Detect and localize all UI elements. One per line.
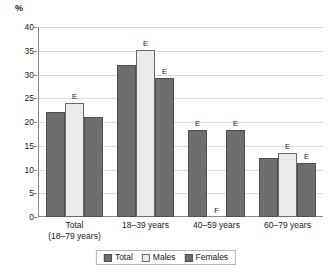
y-axis-tick-mark (34, 98, 37, 99)
y-axis-tick-label: 5 (2, 189, 34, 198)
bar-females[interactable] (226, 130, 245, 217)
gridline (39, 217, 323, 218)
legend-label: Males (153, 253, 176, 262)
quality-flag-e: E (65, 93, 84, 101)
legend-label: Total (115, 253, 133, 262)
x-axis-category-label: 60–79 years (252, 220, 323, 242)
bar-slot (259, 27, 278, 217)
bar-total[interactable] (46, 112, 65, 217)
legend-item-total[interactable]: Total (104, 253, 133, 262)
bar-males[interactable] (278, 153, 297, 217)
x-axis-category-label: 18–39 years (110, 220, 181, 242)
y-axis: 0510152025303540 (0, 27, 34, 217)
bar-males[interactable] (65, 103, 84, 217)
chart-legend: TotalMalesFemales (96, 250, 236, 265)
bar-total[interactable] (117, 65, 136, 217)
y-axis-tick-mark (34, 51, 37, 52)
y-axis-tick-label: 30 (2, 71, 34, 80)
bar-slot: F (207, 27, 226, 217)
y-axis-tick-label: 25 (2, 94, 34, 103)
legend-label: Females (196, 253, 229, 262)
y-axis-tick-mark (34, 193, 37, 194)
y-axis-tick-label: 35 (2, 47, 34, 56)
quality-flag-e: E (278, 143, 297, 151)
bar-chart: % 0510152025303540 EEEEFEEE Total(18–79 … (0, 0, 332, 276)
bar-slot: E (226, 27, 245, 217)
y-axis-tick-label: 20 (2, 118, 34, 127)
bar-females[interactable] (84, 117, 103, 217)
quality-flag-e: E (136, 40, 155, 48)
legend-swatch-icon (142, 254, 150, 262)
bar-slot (84, 27, 103, 217)
quality-flag-e: E (226, 120, 245, 128)
bar-slot: E (297, 27, 316, 217)
bar-group-bars: EE (110, 27, 181, 217)
bar-group-bars: E (39, 27, 110, 217)
quality-flag-e: E (155, 68, 174, 76)
bar-slot: E (136, 27, 155, 217)
legend-item-females[interactable]: Females (185, 253, 229, 262)
y-axis-tick-mark (34, 217, 37, 218)
legend-swatch-icon (104, 254, 112, 262)
y-axis-tick-mark (34, 170, 37, 171)
y-axis-tick-label: 15 (2, 142, 34, 151)
bar-total[interactable] (259, 158, 278, 217)
bar-slot (117, 27, 136, 217)
y-axis-tick-label: 10 (2, 166, 34, 175)
x-axis-category-label: Total(18–79 years) (39, 220, 110, 242)
y-axis-tick-label: 0 (2, 213, 34, 222)
y-axis-tick-mark (34, 75, 37, 76)
y-axis-tick-mark (34, 27, 37, 28)
bar-group: EE (110, 27, 181, 217)
y-axis-tick-mark (34, 122, 37, 123)
y-axis-tick-mark (34, 146, 37, 147)
quality-flag-f: F (207, 207, 226, 215)
bar-group: EE (252, 27, 323, 217)
bar-slot: E (278, 27, 297, 217)
bar-group: EFE (181, 27, 252, 217)
bar-slot: E (65, 27, 84, 217)
bar-group: E (39, 27, 110, 217)
y-axis-tick-label: 40 (2, 23, 34, 32)
bar-females[interactable] (155, 78, 174, 217)
legend-swatch-icon (185, 254, 193, 262)
bar-females[interactable] (297, 163, 316, 217)
bar-slot: E (155, 27, 174, 217)
bar-group-bars: EE (252, 27, 323, 217)
quality-flag-e: E (297, 153, 316, 161)
bar-slot (46, 27, 65, 217)
legend-item-males[interactable]: Males (142, 253, 176, 262)
bar-slot: E (188, 27, 207, 217)
x-axis-labels: Total(18–79 years)18–39 years40–59 years… (39, 220, 323, 242)
y-axis-unit-label: % (15, 3, 23, 13)
bar-group-bars: EFE (181, 27, 252, 217)
x-axis-category-label: 40–59 years (181, 220, 252, 242)
bar-total[interactable] (188, 130, 207, 217)
quality-flag-e: E (188, 120, 207, 128)
bar-males[interactable] (136, 50, 155, 217)
bar-groups: EEEEFEEE (39, 27, 323, 217)
